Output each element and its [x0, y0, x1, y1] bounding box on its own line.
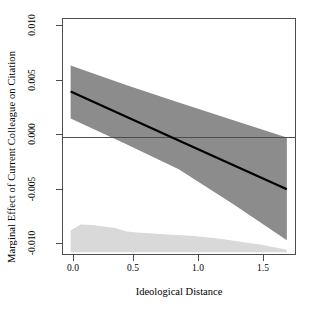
distribution-area [71, 224, 287, 252]
x-tick-mark-1 [133, 255, 134, 261]
x-tick-mark-2 [198, 255, 199, 261]
y-axis-title: Marginal Effect of Current Colleague on … [0, 0, 22, 314]
marginal-effect-chart: Marginal Effect of Current Colleague on … [0, 0, 311, 314]
y-tick-label-1: 0.005 [12, 58, 52, 102]
x-tick-mark-0 [73, 255, 74, 261]
y-tick-label-0: 0.010 [12, 3, 52, 47]
x-tick-label-0: 0.0 [53, 263, 93, 273]
x-tick-label-3: 1.5 [243, 263, 283, 273]
x-tick-mark-3 [263, 255, 264, 261]
y-tick-label-4: -0.010 [12, 221, 52, 265]
confidence-band [71, 66, 287, 241]
y-tick-label-3: -0.005 [12, 167, 52, 211]
x-tick-label-2: 1.0 [178, 263, 218, 273]
x-tick-label-1: 0.5 [113, 263, 153, 273]
x-axis-title: Ideological Distance [62, 286, 296, 297]
y-tick-label-2: 0.000 [12, 112, 52, 156]
plot-svg [63, 19, 296, 255]
plot-area [62, 18, 296, 255]
